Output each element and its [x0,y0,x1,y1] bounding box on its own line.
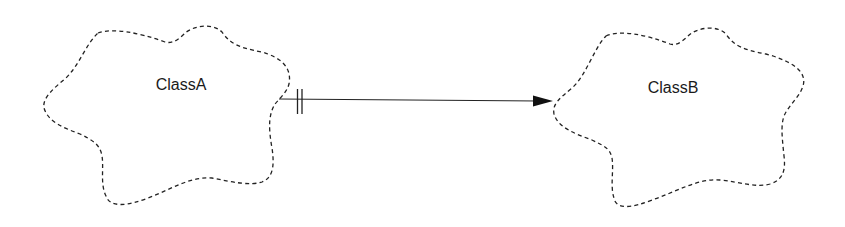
class-b-label: ClassB [648,79,699,96]
arrowhead-icon [533,96,553,107]
class-a-cloud-outline [44,26,290,204]
class-b-node[interactable]: ClassB [554,28,804,206]
double-tick-adornment [298,89,303,114]
association-edge[interactable] [279,89,553,114]
class-a-node[interactable]: ClassA [44,26,290,204]
association-line [279,99,538,101]
class-a-label: ClassA [156,76,207,93]
class-diagram: ClassA ClassB [0,0,845,227]
class-b-cloud-outline [554,28,804,206]
